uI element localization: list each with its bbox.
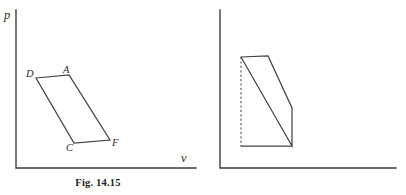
fig-14-16-drawing xyxy=(203,0,406,195)
figures-board: p v D A F C Fig. 14.15 p v D A B C E Fig… xyxy=(0,0,406,195)
cycle-polygon-right xyxy=(241,56,292,146)
y-axis-label-p-left: p xyxy=(4,9,10,22)
cycle-polygon-left xyxy=(36,75,110,143)
figure-caption-fig-14-15: Fig. 14.15 xyxy=(38,178,158,189)
vertex-label-c-left: C xyxy=(66,143,73,154)
x-axis-label-v-left: v xyxy=(181,152,187,165)
figure-fig-14-16: p v D A B C E Fig. 14.16 xyxy=(203,0,406,195)
vertex-label-f-left: F xyxy=(112,138,118,149)
fig-14-15-drawing xyxy=(0,0,203,195)
figure-fig-14-15: p v D A F C Fig. 14.15 xyxy=(0,0,203,195)
vertex-label-d-left: D xyxy=(26,69,34,80)
vertex-label-a-left: A xyxy=(63,65,69,76)
axis-lines-right xyxy=(220,10,396,168)
